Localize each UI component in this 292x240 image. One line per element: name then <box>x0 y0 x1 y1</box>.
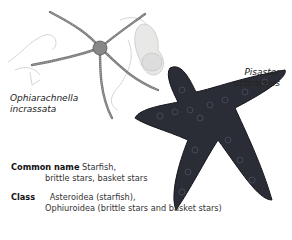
class-row: Class Asteroidea (starfish), Ophiuroidea… <box>11 192 222 214</box>
class-value: Asteroidea (starfish), <box>38 192 136 202</box>
common-name-row: Common name Starfish, brittle stars, bas… <box>11 162 147 184</box>
rock-shape <box>135 24 164 75</box>
class-value-2: Ophiuroidea (brittle stars and basket st… <box>11 203 222 214</box>
class-label: Class <box>11 192 35 202</box>
genus: Ophiarachnella <box>10 93 78 104</box>
common-name-label: Common name <box>11 162 79 172</box>
species: ochraceus <box>234 78 280 89</box>
genus: Pisaster <box>234 67 280 78</box>
common-name-value: Starfish, <box>82 162 116 172</box>
common-name-value-2: brittle stars, basket stars <box>11 173 147 184</box>
species: incrassata <box>10 104 78 115</box>
species-label-ophiarachnella: Ophiarachnella incrassata <box>10 93 78 115</box>
species-label-pisaster: Pisaster ochraceus <box>234 67 280 89</box>
